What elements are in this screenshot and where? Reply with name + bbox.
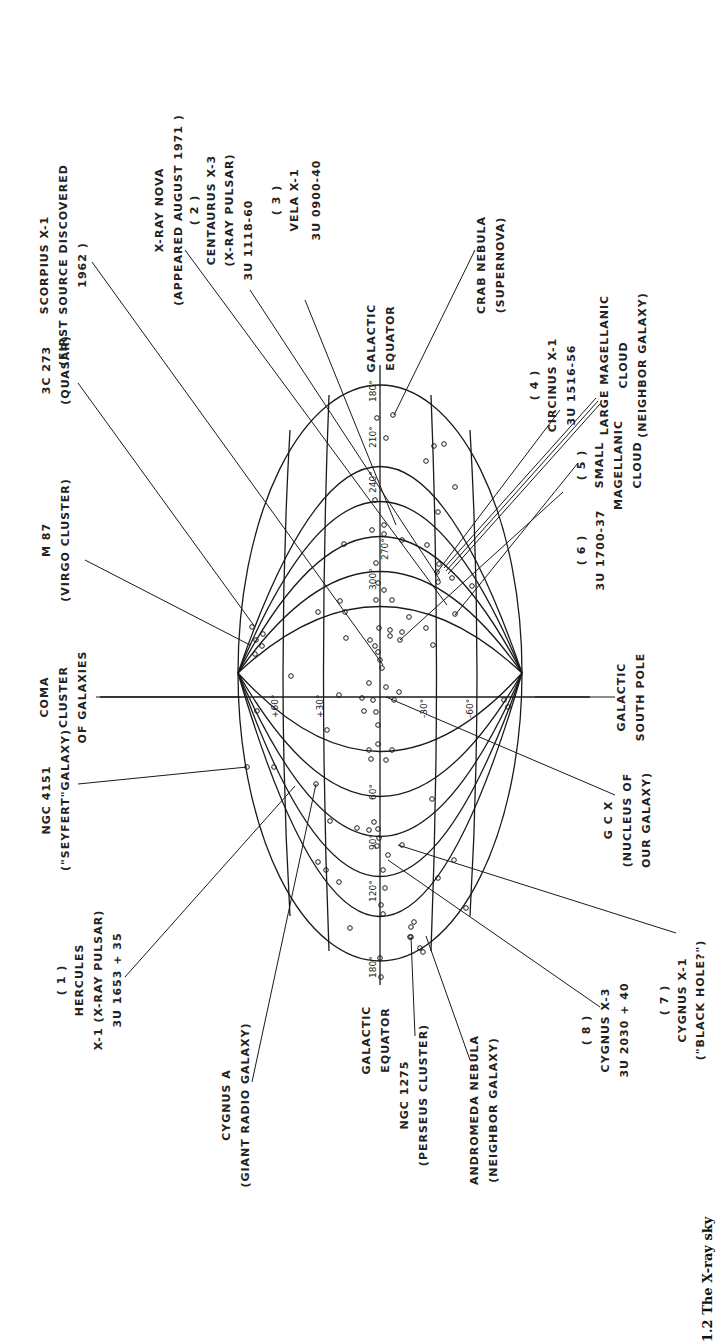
svg-text:GALACTIC: GALACTIC: [360, 1006, 373, 1075]
label-3u1700: ( 6 ) 3U 1700-37: [575, 510, 607, 591]
svg-text:LARGE MAGELLANIC: LARGE MAGELLANIC: [598, 295, 611, 435]
svg-text:SMALL: SMALL: [593, 442, 606, 488]
svg-text:3C 273: 3C 273: [40, 346, 53, 395]
label-xray-nova: X-RAY NOVA (APPEARED AUGUST 1971 ): [153, 114, 185, 305]
label-circinus-x1: ( 4 ) CIRCINUS X-1 3U 1516-56: [528, 338, 578, 433]
svg-text:( 6 ): ( 6 ): [575, 535, 588, 565]
tick-180-top: 180°: [368, 380, 378, 402]
label-3c273: 3C 273 (QUASAR): [40, 335, 72, 404]
svg-text:CYGNUS A: CYGNUS A: [220, 1069, 233, 1140]
svg-text:CLOUD: CLOUD: [617, 341, 630, 388]
svg-text:X-RAY NOVA: X-RAY NOVA: [153, 168, 166, 252]
label-galactic-equator-bottom: GALACTIC EQUATOR: [360, 1006, 392, 1075]
svg-text:("BLACK HOLE?"): ("BLACK HOLE?"): [694, 940, 707, 1060]
label-m87: M 87 (VIRGO CLUSTER): [40, 478, 72, 601]
label-gcx: G C X (NUCLEUS OF OUR GALAXY): [602, 772, 653, 868]
svg-text:G C X: G C X: [602, 801, 615, 839]
figure-caption: 1.2 The X-ray sky: [700, 1216, 715, 1342]
svg-text:(NUCLEUS OF: (NUCLEUS OF: [621, 773, 634, 867]
svg-text:( 3 ): ( 3 ): [270, 185, 283, 215]
svg-text:OF GALAXIES: OF GALAXIES: [76, 651, 89, 744]
svg-text:CLUSTER: CLUSTER: [57, 666, 70, 728]
label-large-magellanic-cloud: LARGE MAGELLANIC CLOUD (NEIGHBOR GALAXY): [598, 292, 649, 438]
svg-text:CENTAURUS X-3: CENTAURUS X-3: [205, 155, 218, 266]
svg-text:VELA X-1: VELA X-1: [288, 168, 301, 231]
svg-text:(GIANT RADIO GALAXY): (GIANT RADIO GALAXY): [239, 1022, 252, 1187]
svg-text:( 7 ): ( 7 ): [658, 985, 671, 1015]
svg-text:3U 1653 + 35: 3U 1653 + 35: [111, 932, 124, 1027]
tick-300: 300°: [368, 568, 378, 590]
svg-text:(NEIGHBOR GALAXY): (NEIGHBOR GALAXY): [636, 292, 649, 438]
svg-text:MAGELLANIC: MAGELLANIC: [612, 420, 625, 510]
svg-text:COMA: COMA: [38, 677, 51, 718]
svg-text:(VIRGO CLUSTER): (VIRGO CLUSTER): [59, 478, 72, 601]
svg-text:ANDROMEDA NEBULA: ANDROMEDA NEBULA: [468, 1035, 481, 1185]
svg-text:("SEYFERT"GALAXY): ("SEYFERT"GALAXY): [59, 729, 72, 871]
svg-text:EQUATOR: EQUATOR: [384, 305, 397, 370]
svg-text:SCORPIUS X-1: SCORPIUS X-1: [38, 216, 51, 314]
svg-text:( 1 ): ( 1 ): [55, 965, 68, 995]
tick-plus60: +60°: [270, 695, 280, 719]
tick-180-bottom: 180°: [368, 956, 378, 978]
svg-text:CRAB NEBULA: CRAB NEBULA: [475, 216, 488, 314]
parallel-minus30: [431, 395, 437, 951]
svg-text:CLOUD: CLOUD: [631, 441, 644, 488]
tick-240: 240°: [368, 471, 378, 493]
label-cygnus-a: CYGNUS A (GIANT RADIO GALAXY): [220, 1022, 252, 1187]
tick-210: 210°: [368, 426, 378, 448]
svg-text:CYGNUS X-1: CYGNUS X-1: [676, 958, 689, 1043]
label-vela-x1: ( 3 ) VELA X-1 3U 0900-40: [270, 160, 323, 241]
tick-60: 60°: [368, 784, 378, 800]
label-cygnus-x3: ( 8 ) CYGNUS X-3 3U 2030 + 40: [580, 982, 631, 1077]
parallel-minus60: [470, 430, 477, 916]
svg-text:3U 1516-56: 3U 1516-56: [565, 345, 578, 426]
svg-text:(NEIGHBOR GALAXY): (NEIGHBOR GALAXY): [487, 1037, 500, 1183]
tick-plus30: +30°: [315, 695, 325, 719]
tick-120: 120°: [368, 880, 378, 902]
svg-text:(SUPERNOVA): (SUPERNOVA): [494, 217, 507, 314]
longitude-ticks: 180° 210° 240° 270° 300° 60° 90° 120° 18…: [368, 380, 390, 978]
projection-grid: [100, 365, 590, 985]
tick-270: 270°: [380, 538, 390, 560]
svg-text:X-1 (X-RAY PULSAR): X-1 (X-RAY PULSAR): [92, 910, 105, 1050]
svg-text:CIRCINUS X-1: CIRCINUS X-1: [546, 338, 559, 433]
xray-sky-map: 180° 210° 240° 270° 300° 60° 90° 120° 18…: [0, 0, 717, 1342]
svg-text:(X-RAY PULSAR): (X-RAY PULSAR): [223, 154, 236, 267]
label-ngc1275: NGC 1275 (PERSEUS CLUSTER): [398, 1024, 430, 1166]
svg-text:(PERSEUS CLUSTER): (PERSEUS CLUSTER): [417, 1024, 430, 1166]
label-crab-nebula: CRAB NEBULA (SUPERNOVA): [475, 216, 507, 314]
svg-text:3U 2030 + 40: 3U 2030 + 40: [618, 982, 631, 1077]
svg-text:GALACTIC: GALACTIC: [365, 304, 378, 373]
svg-text:NGC 4151: NGC 4151: [40, 766, 53, 835]
tick-minus60: -60°: [465, 699, 475, 718]
svg-text:3U 1118-60: 3U 1118-60: [242, 200, 255, 281]
label-galactic-south-pole: GALACTIC SOUTH POLE: [615, 653, 647, 742]
svg-text:OUR GALAXY): OUR GALAXY): [640, 772, 653, 868]
svg-text:(APPEARED AUGUST 1971 ): (APPEARED AUGUST 1971 ): [172, 114, 185, 305]
svg-text:(QUASAR): (QUASAR): [59, 335, 72, 404]
svg-text:( 8 ): ( 8 ): [580, 1015, 593, 1045]
svg-text:GALACTIC: GALACTIC: [615, 663, 628, 732]
svg-text:3U 1700-37: 3U 1700-37: [594, 510, 607, 591]
label-ngc4151: NGC 4151 ("SEYFERT"GALAXY): [40, 729, 72, 871]
svg-text:M 87: M 87: [40, 523, 53, 557]
svg-text:( 5 ): ( 5 ): [575, 450, 588, 480]
svg-text:SOUTH POLE: SOUTH POLE: [634, 653, 647, 742]
label-hercules-x1: ( 1 ) HERCULES X-1 (X-RAY PULSAR) 3U 165…: [55, 910, 124, 1050]
svg-text:NGC 1275: NGC 1275: [398, 1061, 411, 1130]
svg-text:HERCULES: HERCULES: [73, 944, 86, 1017]
svg-text:EQUATOR: EQUATOR: [379, 1007, 392, 1072]
svg-text:1962 ): 1962 ): [76, 242, 89, 287]
svg-text:CYGNUS X-3: CYGNUS X-3: [599, 988, 612, 1073]
label-cygnus-x1: ( 7 ) CYGNUS X-1 ("BLACK HOLE?"): [658, 940, 707, 1060]
parallel-plus60: [283, 430, 290, 916]
svg-text:( 2 ): ( 2 ): [188, 195, 201, 225]
svg-text:( 4 ): ( 4 ): [528, 370, 541, 400]
label-galactic-equator-top: GALACTIC EQUATOR: [365, 304, 397, 373]
svg-text:3U 0900-40: 3U 0900-40: [310, 160, 323, 241]
label-centaurus-x3: ( 2 ) CENTAURUS X-3 (X-RAY PULSAR) 3U 11…: [188, 154, 255, 281]
tick-90: 90°: [368, 834, 378, 850]
label-andromeda: ANDROMEDA NEBULA (NEIGHBOR GALAXY): [468, 1035, 500, 1185]
